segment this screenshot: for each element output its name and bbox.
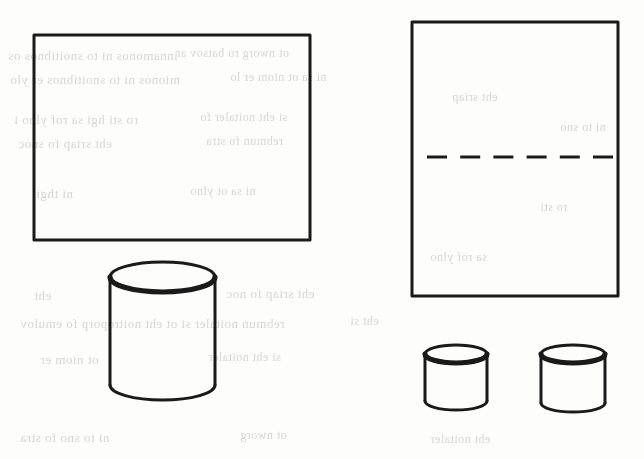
large-cylinder-top-rim-back [110,262,215,277]
small-cylinder-right-bottom-arc [541,403,605,412]
small-cylinder-right [541,345,605,412]
left-rectangle [34,35,310,240]
small-cylinder-right-top-rim-front [541,354,605,363]
small-cylinder-right-top-rim-back [541,345,605,354]
right-rectangle-outline [412,22,618,296]
large-cylinder-top-rim-front [110,277,215,292]
small-cylinder-left-top-rim-back [425,345,487,354]
small-cylinder-left [425,345,487,410]
figure-svg [0,0,644,459]
large-cylinder [110,262,215,400]
scanned-page: innamonos ni to snoitibnos osot nworg ro… [0,0,644,459]
small-cylinder-left-top-rim-front [425,354,487,363]
figure-artwork [0,0,644,459]
large-cylinder-bottom-arc [110,385,215,400]
right-rectangle [412,22,618,296]
small-cylinder-left-bottom-arc [425,401,487,410]
left-rectangle-outline [34,35,310,240]
